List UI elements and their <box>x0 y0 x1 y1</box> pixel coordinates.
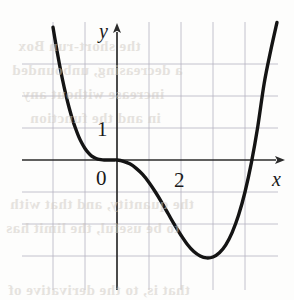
y-axis-label: y <box>97 20 108 43</box>
y-tick-label-1: 1 <box>97 117 108 141</box>
function-curve <box>53 22 277 258</box>
x-axis-label: x <box>271 168 281 190</box>
cartesian-plot: y x 1 0 2 <box>0 0 294 300</box>
x-tick-label-2: 2 <box>174 168 185 192</box>
origin-label: 0 <box>96 166 107 190</box>
graph-figure: the short-run Boxa decreasing, unbounded… <box>0 0 294 300</box>
